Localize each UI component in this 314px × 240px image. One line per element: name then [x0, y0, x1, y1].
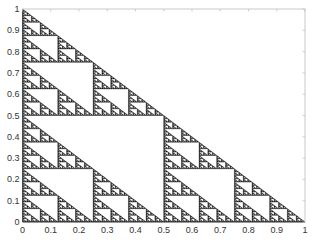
x-tick-label: 0.9: [270, 225, 283, 235]
y-tick-label: 0.7: [7, 68, 20, 78]
y-tick-label: 0.8: [7, 47, 20, 57]
x-tick-label: 0.7: [214, 225, 227, 235]
x-tick-label: 1: [302, 225, 307, 235]
fractal-path: [23, 9, 306, 222]
y-tick-label: 0.1: [7, 196, 20, 206]
y-tick-label: 0.3: [7, 153, 20, 163]
axes: 00.10.20.30.40.50.60.70.80.9100.10.20.30…: [7, 4, 308, 235]
x-tick-label: 0.2: [73, 225, 86, 235]
y-tick-label: 0.2: [7, 174, 20, 184]
x-tick-label: 0.5: [157, 225, 170, 235]
y-tick-label: 0: [14, 217, 19, 227]
x-tick-label: 0.3: [101, 225, 114, 235]
x-tick-label: 0.6: [186, 225, 199, 235]
sierpinski-triangle: [23, 9, 306, 222]
y-tick-label: 0.9: [7, 25, 20, 35]
y-tick-label: 1: [14, 4, 19, 14]
x-tick-label: 0.4: [129, 225, 142, 235]
sierpinski-chart: 00.10.20.30.40.50.60.70.80.9100.10.20.30…: [0, 0, 314, 240]
x-tick-label: 0.8: [242, 225, 255, 235]
x-tick-label: 0.1: [44, 225, 57, 235]
x-tick-label: 0: [20, 225, 25, 235]
y-tick-label: 0.5: [7, 111, 20, 121]
y-tick-label: 0.4: [7, 132, 20, 142]
y-tick-label: 0.6: [7, 89, 20, 99]
